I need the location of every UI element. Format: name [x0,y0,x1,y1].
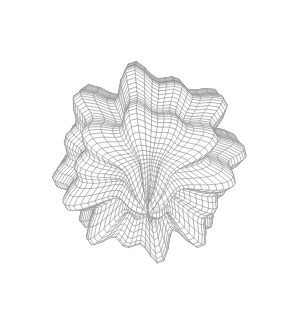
figure-root [0,0,296,311]
wireframe-surface-plot [0,0,296,311]
